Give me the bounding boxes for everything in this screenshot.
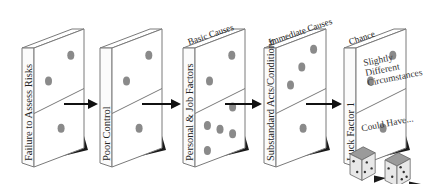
die-icon (385, 153, 421, 184)
domino-5: Luck Factor 1ChanceSlightlyDifferentCirc… (344, 29, 424, 167)
die-shadow (374, 176, 386, 183)
domino-pip (300, 124, 307, 133)
arrow-head (88, 99, 98, 109)
domino-side-label: Substandard Acts/Conditions (265, 39, 276, 161)
domino-side-label: Poor Control (101, 106, 112, 161)
arrow-head (332, 99, 342, 109)
domino-face (34, 29, 84, 167)
domino-side-label: Personal & Job Factors (184, 63, 195, 161)
domino-face (112, 29, 162, 167)
die-pip (387, 167, 389, 169)
domino-diagram: Failure to Assess RisksPoor ControlPerso… (0, 0, 441, 184)
die-pip (403, 171, 405, 173)
domino-pip (310, 45, 317, 54)
domino-pip (67, 51, 74, 60)
domino-pip (123, 77, 130, 86)
domino-3: Personal & Job FactorsBasic Causes (183, 22, 249, 167)
die-pip (391, 176, 393, 178)
die-pip (399, 166, 401, 168)
arrow-head (171, 99, 181, 109)
domino-side-label: Failure to Assess Risks (23, 64, 34, 161)
die-pip (405, 176, 407, 178)
die-shadow (409, 182, 421, 184)
die-pip (370, 167, 372, 169)
domino-pip (229, 129, 236, 138)
domino-pip (145, 51, 152, 60)
domino-face (195, 29, 245, 167)
domino-pip (136, 124, 143, 133)
domino-pip (228, 51, 235, 60)
domino-pip (45, 77, 52, 86)
die-pip (356, 171, 358, 173)
domino-pip (217, 125, 224, 134)
domino-4: Substandard Acts/ConditionsImmediate Cau… (264, 16, 334, 167)
die-pip (364, 171, 366, 173)
die-pip (352, 160, 354, 162)
domino-2: Poor Control (100, 29, 166, 167)
domino-pip (204, 146, 211, 155)
domino-face (356, 29, 406, 167)
die-pip (401, 178, 403, 180)
domino-pip (204, 121, 211, 130)
domino-1: Failure to Assess Risks (22, 29, 88, 167)
domino-pip (206, 77, 213, 86)
domino-pip (58, 124, 65, 133)
die-pip (366, 161, 368, 163)
domino-pip (298, 62, 305, 71)
domino-pip (287, 81, 294, 90)
domino-face (276, 29, 326, 167)
arrow-head (252, 99, 262, 109)
